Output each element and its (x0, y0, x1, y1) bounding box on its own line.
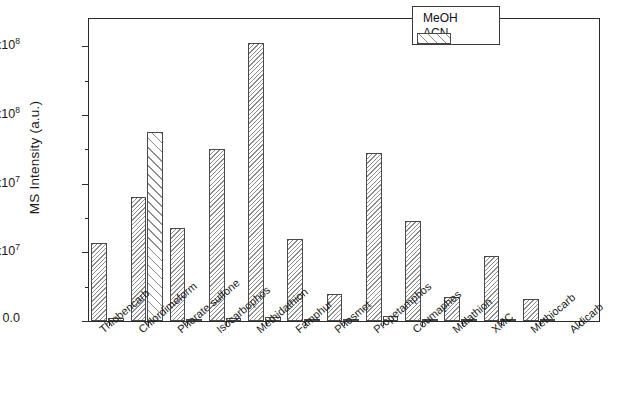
bar-group (128, 19, 167, 321)
chart-figure: MS Intensity (a.u.) 0.04.0x1078.0x1071.2… (0, 0, 623, 395)
y-tick-major (82, 184, 89, 185)
y-tick-label: 1.6x108 (0, 36, 20, 52)
legend-label-meoh: MeOH (423, 13, 458, 24)
y-tick-major (82, 46, 89, 47)
y-tick-label: 1.2x108 (0, 105, 20, 121)
legend-item-meoh: MeOH (417, 11, 495, 25)
bar-meoh (366, 153, 382, 321)
legend: MeOH ACN (412, 6, 500, 45)
bar-group (364, 19, 403, 321)
bar-group (167, 19, 206, 321)
bar-group (285, 19, 324, 321)
bar-group (442, 19, 481, 321)
y-tick-label: 8.0x107 (0, 174, 20, 190)
bar-group (89, 19, 128, 321)
bar-group (246, 19, 285, 321)
y-tick-major (82, 252, 89, 253)
bar-group (324, 19, 363, 321)
y-tick-label: 4.0x107 (0, 242, 20, 258)
plot-area (88, 18, 600, 322)
bar-group (521, 19, 560, 321)
legend-swatch-acn (417, 33, 451, 44)
bar-group (207, 19, 246, 321)
y-axis-title: MS Intensity (a.u.) (27, 28, 42, 288)
y-tick-major (82, 321, 89, 322)
bar-group (481, 19, 520, 321)
bar-meoh (248, 43, 264, 321)
y-tick-label: 0.0 (0, 311, 20, 325)
legend-item-acn: ACN (417, 26, 495, 40)
bar-group (403, 19, 442, 321)
bar-meoh (91, 243, 107, 321)
bar-group (560, 19, 599, 321)
y-tick-major (82, 115, 89, 116)
